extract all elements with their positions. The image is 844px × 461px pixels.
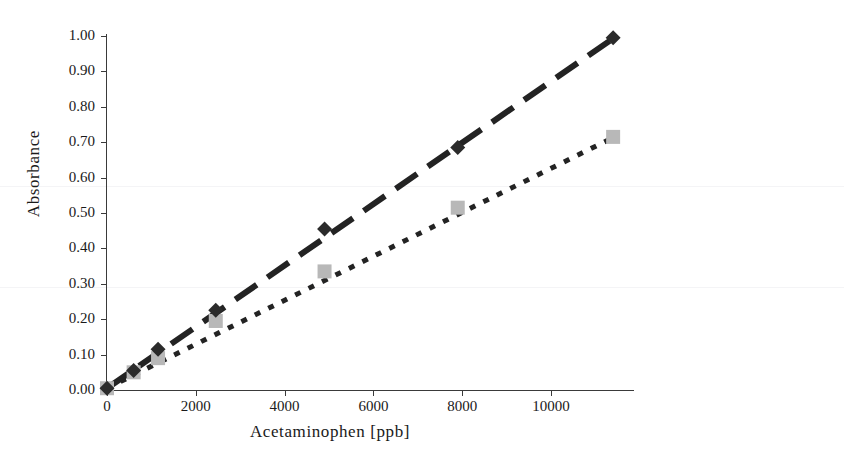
data-point-marker [318, 264, 332, 278]
trendline-lower-fit [107, 136, 617, 388]
data-point-marker [451, 201, 465, 215]
figure-canvas: Figure 3. Calibration curves 0.000.100.2… [0, 0, 844, 461]
plot-overlay [0, 0, 844, 461]
data-point-marker [317, 221, 332, 236]
trendline-upper-fit [107, 36, 617, 388]
data-point-marker [606, 130, 620, 144]
